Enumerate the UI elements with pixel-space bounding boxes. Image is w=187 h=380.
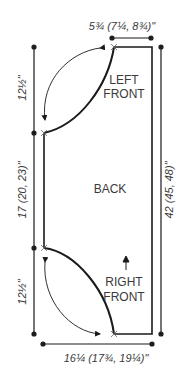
left-front-label-line1: LEFT xyxy=(109,73,139,87)
right-front-label-line2: FRONT xyxy=(103,290,145,304)
up-arrow-icon xyxy=(123,256,129,270)
left-upper-dimension-label: 12½" xyxy=(16,74,28,100)
right-front-label-line1: RIGHT xyxy=(105,275,143,289)
back-label: BACK xyxy=(94,182,127,196)
left-lower-dimension-label: 12½" xyxy=(16,278,28,304)
fold-arrow-top-icon xyxy=(44,48,100,120)
schematic-canvas: LEFT FRONT BACK RIGHT FRONT 5¾ (7¼, 8¾)"… xyxy=(0,0,187,380)
left-front-label-line2: FRONT xyxy=(103,87,145,101)
bottom-width-label: 16¼ (17¾, 19¼)" xyxy=(64,352,150,364)
left-middle-dimension-label: 17 (20, 23)" xyxy=(16,160,28,218)
right-total-dimension-label: 42 (45, 48)" xyxy=(163,160,175,218)
top-width-label: 5¾ (7¼, 8¾)" xyxy=(89,20,156,32)
fold-arrow-bottom-icon xyxy=(45,262,100,334)
